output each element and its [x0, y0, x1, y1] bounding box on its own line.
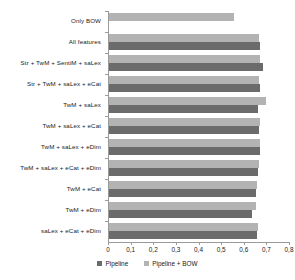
category-tick	[105, 95, 108, 96]
bar-pipeline-plus-bow	[108, 76, 259, 84]
bar-group	[108, 95, 289, 116]
x-axis-tick-label: 0,6	[239, 246, 248, 253]
bar-group	[108, 158, 289, 179]
category-tick	[105, 53, 108, 54]
bar-pipeline	[108, 147, 260, 155]
chart-legend: PipelinePipeline + BOW	[0, 260, 295, 267]
category-label: Only BOW	[71, 18, 101, 25]
x-axis-tick-label: 0,8	[285, 246, 294, 253]
bar-pipeline-plus-bow	[108, 139, 260, 147]
bar-pipeline	[108, 63, 263, 71]
bar-group	[108, 11, 289, 32]
category-label: TwM + saLex + eDim	[41, 144, 101, 151]
category-label-row: Str + TwM + saLex + eCat	[0, 74, 104, 95]
bar-pipeline-plus-bow	[108, 97, 266, 105]
category-label-row: saLex + eCat + eDim	[0, 221, 104, 242]
category-tick	[105, 221, 108, 222]
bar-group	[108, 32, 289, 53]
plot-area	[108, 11, 289, 242]
x-axis-tick-label: 0,2	[149, 246, 158, 253]
category-tick	[105, 137, 108, 138]
x-axis-tick-label: 0,4	[194, 246, 203, 253]
category-label-row: Only BOW	[0, 11, 104, 32]
x-axis-tick	[153, 242, 154, 245]
bar-pipeline-plus-bow	[108, 181, 257, 189]
bar-pipeline	[108, 168, 258, 176]
category-tick	[105, 179, 108, 180]
legend-item: Pipeline + BOW	[144, 260, 197, 267]
category-tick	[105, 32, 108, 33]
bar-chart: Only BOWAll featuresStr + TwM + SentiM +…	[0, 0, 295, 280]
x-axis-tick-label: 0,5	[217, 246, 226, 253]
category-label: TwM + saLex	[63, 102, 101, 109]
legend-item: Pipeline	[97, 260, 128, 267]
category-tick	[105, 74, 108, 75]
legend-swatch-icon	[144, 261, 149, 266]
bar-group	[108, 179, 289, 200]
x-axis-tick	[108, 242, 109, 245]
x-axis-tick-label: 0	[106, 246, 110, 253]
category-label-row: TwM + saLex	[0, 95, 104, 116]
category-label-row: TwM + saLex + eDim	[0, 137, 104, 158]
category-tick	[105, 158, 108, 159]
bar-group	[108, 137, 289, 158]
bar-pipeline-plus-bow	[108, 118, 260, 126]
bar-group	[108, 200, 289, 221]
category-tick	[105, 200, 108, 201]
bar-group	[108, 221, 289, 242]
category-label: Str + TwM + saLex + eCat	[27, 81, 101, 88]
bar-pipeline	[108, 126, 259, 134]
category-label: TwM + eDim	[65, 207, 101, 214]
x-axis-tick-label: 0,1	[126, 246, 135, 253]
x-axis-tick	[176, 242, 177, 245]
category-axis-labels: Only BOWAll featuresStr + TwM + SentiM +…	[0, 11, 104, 242]
bar-pipeline	[108, 210, 252, 218]
legend-label: Pipeline + BOW	[152, 260, 197, 267]
category-label-row: All features	[0, 32, 104, 53]
category-tick	[105, 11, 108, 12]
category-label: saLex + eCat + eDim	[41, 228, 101, 235]
bar-pipeline	[108, 42, 260, 50]
x-axis-tick	[221, 242, 222, 245]
category-label: TwM + eCat	[67, 186, 101, 193]
bar-pipeline	[108, 189, 256, 197]
x-axis-tick	[131, 242, 132, 245]
bar-pipeline-plus-bow	[108, 223, 258, 231]
bar-pipeline	[108, 84, 260, 92]
bar-pipeline-plus-bow	[108, 160, 259, 168]
category-label-row: TwM + saLex + eCat	[0, 116, 104, 137]
x-axis-tick-label: 0,3	[171, 246, 180, 253]
bar-pipeline-plus-bow	[108, 202, 256, 210]
bar-group	[108, 53, 289, 74]
value-axis-line	[108, 11, 109, 242]
category-tick	[105, 116, 108, 117]
category-label: TwM + saLex + eCat	[42, 123, 101, 130]
category-label-row: TwM + eDim	[0, 200, 104, 221]
bar-group	[108, 74, 289, 95]
bar-pipeline-plus-bow	[108, 34, 259, 42]
x-axis-tick	[199, 242, 200, 245]
x-axis-tick-label: 0,7	[262, 246, 271, 253]
category-label: Str + TwM + SentiM + saLex	[21, 60, 101, 67]
bar-pipeline	[108, 105, 258, 113]
x-axis-tick	[266, 242, 267, 245]
x-axis-tick	[289, 242, 290, 245]
bar-pipeline-plus-bow	[108, 55, 260, 63]
bar-group	[108, 116, 289, 137]
category-label: TwM + saLex + eCat + eDim	[20, 165, 101, 172]
bar-pipeline-plus-bow	[108, 13, 234, 21]
category-label-row: Str + TwM + SentiM + saLex	[0, 53, 104, 74]
x-axis-tick	[244, 242, 245, 245]
category-label-row: TwM + saLex + eCat + eDim	[0, 158, 104, 179]
category-label-row: TwM + eCat	[0, 179, 104, 200]
bar-pipeline	[108, 231, 257, 239]
legend-swatch-icon	[97, 261, 102, 266]
legend-label: Pipeline	[105, 260, 128, 267]
category-label: All features	[69, 39, 101, 46]
